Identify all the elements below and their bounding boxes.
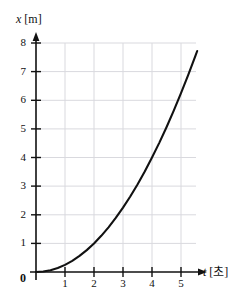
gridlines-horizontal [36,43,196,243]
x-axis-title: t [초] [203,262,228,280]
y-tick-label-2: 2 [12,208,26,220]
y-tick-label-8: 8 [12,36,26,48]
data-curve [36,51,197,272]
y-axis-title: x [m] [16,12,42,27]
x-axis-title-unit: [초] [206,265,228,279]
x-tick-label-1: 1 [58,277,72,289]
x-tick-label-5: 5 [174,277,188,289]
origin-label: 0 [20,271,26,286]
y-tick-label-7: 7 [12,65,26,77]
y-axis-title-unit: [m] [21,12,41,26]
plot-area [0,0,239,304]
x-tick-label-4: 4 [145,277,159,289]
y-tick-label-1: 1 [12,236,26,248]
y-tick-label-5: 5 [12,122,26,134]
position-time-graph-figure: - - - - - - - - - - - - [0,0,239,304]
y-tick-label-3: 3 [12,179,26,191]
x-tick-label-2: 2 [87,277,101,289]
y-tick-label-6: 6 [12,93,26,105]
y-tick-label-4: 4 [12,151,26,163]
x-tick-label-3: 3 [116,277,130,289]
